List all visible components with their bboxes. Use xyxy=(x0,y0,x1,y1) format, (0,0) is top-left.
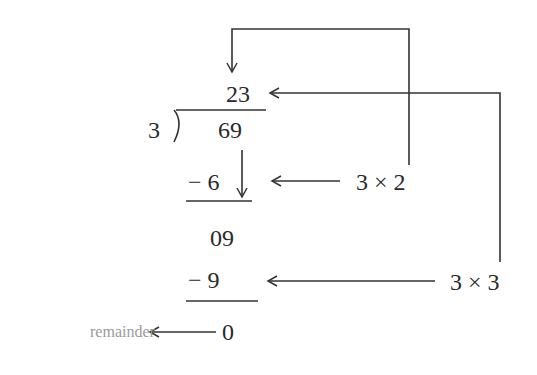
product-3x3: 3 × 3 xyxy=(450,269,500,295)
divisor: 3 xyxy=(148,117,160,143)
division-bracket xyxy=(174,110,179,142)
product-3x2: 3 × 2 xyxy=(356,169,406,195)
subtract-9: − 9 xyxy=(188,267,220,293)
subtract-6: − 6 xyxy=(188,169,220,195)
remainder-value: 0 xyxy=(222,319,234,345)
quotient: 23 xyxy=(226,81,250,107)
bring-down-09: 09 xyxy=(210,225,234,251)
long-division-diagram: 23 3 69 − 6 3 × 2 09 − 9 3 × 3 0 remaind… xyxy=(0,0,537,375)
connector-3x2-to-quotient-2 xyxy=(232,29,409,165)
dividend: 69 xyxy=(218,117,242,143)
remainder-label: remainder xyxy=(90,323,156,340)
